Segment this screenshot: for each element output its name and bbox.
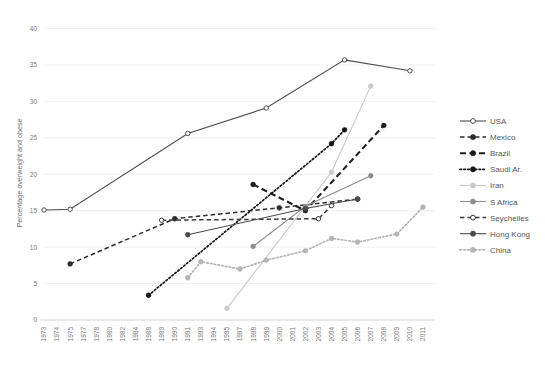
- chart-root: 0510152025303540Percentage overweight an…: [0, 0, 545, 372]
- x-tick-label: 2006: [354, 327, 361, 342]
- y-tick-label: 0: [33, 316, 37, 323]
- x-tick-label: 1980: [106, 327, 113, 342]
- x-tick-label: 1995: [223, 327, 230, 342]
- y-tick-label: 25: [30, 134, 38, 141]
- legend-marker: [470, 199, 475, 204]
- data-point: [225, 306, 230, 311]
- x-tick-label: 2011: [419, 327, 426, 341]
- x-tick-label: 1975: [67, 327, 74, 342]
- x-tick-label: 2002: [302, 327, 309, 342]
- data-point: [185, 275, 190, 280]
- legend: USAMexicoBrazilSaudi Ar.IranS AfricaSeyc…: [460, 117, 530, 255]
- legend-item-seychelles[interactable]: Seychelles: [460, 214, 529, 223]
- series-line: [44, 60, 410, 210]
- x-tick-label: 2009: [393, 327, 400, 342]
- x-tick-label: 1978: [93, 327, 100, 342]
- legend-marker: [470, 135, 475, 140]
- legend-marker: [470, 167, 475, 172]
- data-point: [342, 127, 347, 132]
- x-tick-label: 2007: [367, 327, 374, 342]
- legend-label: S Africa: [490, 198, 518, 207]
- series-group: [42, 58, 426, 311]
- legend-item-china[interactable]: China: [460, 246, 511, 255]
- y-tick-label: 15: [30, 207, 38, 214]
- x-tick-label: 1998: [250, 327, 257, 342]
- y-tick-label: 5: [33, 280, 37, 287]
- data-point: [381, 123, 386, 128]
- x-tick-label: 1973: [40, 327, 47, 342]
- data-point: [355, 197, 360, 202]
- data-point: [368, 173, 373, 178]
- legend-label: Hong Kong: [490, 230, 530, 239]
- y-axis-title: Percentage overweight and obese: [15, 118, 24, 227]
- data-point: [329, 170, 334, 175]
- legend-item-hong-kong[interactable]: Hong Kong: [460, 230, 530, 239]
- legend-label: Saudi Ar.: [490, 165, 522, 174]
- legend-item-saudi-ar[interactable]: Saudi Ar.: [460, 165, 522, 174]
- data-point: [251, 182, 256, 187]
- x-tick-label: 2003: [315, 327, 322, 342]
- x-tick-label: 1982: [119, 327, 126, 342]
- y-tick-label: 30: [30, 98, 38, 105]
- y-tick-label: 20: [30, 171, 38, 178]
- x-tick-label: 1988: [145, 327, 152, 342]
- legend-item-usa[interactable]: USA: [460, 117, 507, 126]
- legend-label: Mexico: [490, 133, 516, 142]
- data-point: [408, 69, 412, 73]
- data-point: [368, 84, 373, 89]
- data-point: [159, 218, 163, 222]
- legend-marker: [470, 247, 475, 252]
- series-line: [70, 199, 358, 264]
- line-chart: 0510152025303540Percentage overweight an…: [0, 0, 545, 372]
- x-tick-label: 1993: [197, 327, 204, 342]
- data-point: [186, 131, 190, 135]
- data-point: [42, 208, 46, 212]
- data-point: [264, 258, 269, 263]
- y-tick-label: 35: [30, 61, 38, 68]
- data-point: [277, 205, 282, 210]
- series-brazil: [251, 123, 386, 213]
- legend-item-iran[interactable]: Iran: [460, 181, 504, 190]
- data-point: [68, 262, 73, 267]
- legend-marker: [471, 119, 476, 124]
- series-saudi-ar: [146, 127, 347, 297]
- legend-label: USA: [490, 117, 507, 126]
- data-point: [329, 236, 334, 241]
- series-usa: [42, 58, 412, 212]
- data-point: [146, 293, 151, 298]
- legend-marker: [471, 215, 476, 220]
- x-tick-label: 1991: [184, 327, 191, 342]
- x-tick-label: 2005: [341, 327, 348, 342]
- y-tick-label: 40: [30, 25, 38, 32]
- data-point: [329, 141, 334, 146]
- legend-item-brazil[interactable]: Brazil: [460, 149, 510, 158]
- x-tick-label: 2008: [380, 327, 387, 342]
- legend-label: Brazil: [490, 149, 510, 158]
- x-tick-label: 1990: [171, 327, 178, 342]
- series-line: [227, 86, 371, 308]
- data-point: [303, 248, 308, 253]
- data-point: [251, 244, 256, 249]
- legend-marker: [470, 183, 475, 188]
- x-tick-label: 2000: [276, 327, 283, 342]
- x-tick-label: 1997: [236, 327, 243, 342]
- x-tick-label: 1989: [158, 327, 165, 342]
- x-tick-labels: 1973197419751977197819801982198419881989…: [40, 327, 426, 342]
- series-line: [149, 130, 345, 295]
- legend-marker: [470, 231, 475, 236]
- series-iran: [225, 84, 374, 311]
- data-point: [394, 232, 399, 237]
- legend-label: Seychelles: [490, 214, 529, 223]
- x-tick-label: 1974: [53, 327, 60, 342]
- data-point: [342, 58, 346, 62]
- x-tick-label: 1999: [263, 327, 270, 342]
- series-china: [185, 205, 425, 280]
- x-tick-label: 2001: [289, 327, 296, 342]
- legend-item-mexico[interactable]: Mexico: [460, 133, 516, 142]
- data-point: [185, 232, 190, 237]
- data-point: [68, 207, 72, 211]
- legend-item-s-africa[interactable]: S Africa: [460, 198, 518, 207]
- y-tick-label: 10: [30, 244, 38, 251]
- series-line: [188, 207, 423, 278]
- legend-marker: [470, 151, 475, 156]
